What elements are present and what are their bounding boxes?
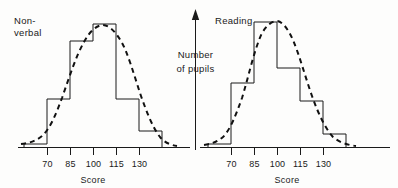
y-axis-label-line1: Number xyxy=(178,49,214,60)
right-tick-label-100: 100 xyxy=(270,159,286,169)
left-tick-label-115: 115 xyxy=(109,159,124,169)
right-tick-label-130: 130 xyxy=(316,159,332,169)
figure-container: Non- verbal 70 85 100 115 130 Score xyxy=(0,0,398,188)
right-tick-label-115: 115 xyxy=(293,159,308,169)
right-tick-label-85: 85 xyxy=(249,159,259,169)
y-axis-label-line2: of pupils xyxy=(176,63,214,74)
right-x-axis-title: Score xyxy=(274,175,299,185)
right-tick-label-70: 70 xyxy=(226,159,236,169)
y-axis-arrow-head-icon xyxy=(192,9,199,20)
left-tick-label-100: 100 xyxy=(86,159,102,169)
dual-histogram-svg: Non- verbal 70 85 100 115 130 Score xyxy=(0,0,398,188)
left-x-axis-title: Score xyxy=(80,175,105,185)
right-normal-curve xyxy=(204,21,356,146)
right-x-ticks xyxy=(232,148,324,156)
right-panel-title: Reading xyxy=(215,15,253,26)
left-panel-nonverbal: Non- verbal 70 85 100 115 130 Score xyxy=(14,15,190,185)
left-panel-title-line1: Non- xyxy=(14,15,36,26)
left-x-ticks xyxy=(48,148,140,156)
center-y-axis: Number of pupils xyxy=(176,9,214,150)
left-tick-label-85: 85 xyxy=(65,159,75,169)
left-histogram-outline xyxy=(24,24,162,147)
right-panel-reading: Reading 70 85 100 115 130 Score xyxy=(200,15,390,185)
left-tick-label-70: 70 xyxy=(42,159,52,169)
left-tick-label-130: 130 xyxy=(132,159,148,169)
left-normal-curve xyxy=(21,25,177,146)
left-panel-title-line2: verbal xyxy=(14,27,42,38)
